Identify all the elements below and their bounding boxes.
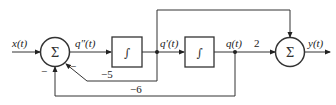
integrator-2-symbol: ∫ [196,46,203,60]
integrator-1-symbol: ∫ [124,46,131,60]
sum1-sigma: Σ [51,46,59,60]
block-diagram: x(t) Σ q″(t) ∫ q′(t) ∫ q(t) 2 Σ y(t) −5 … [0,0,336,105]
sum1-sign-q: − [41,65,47,77]
output-label: y(t) [307,37,324,50]
gain-minus5-label: −5 [101,68,113,80]
branch-node-qdot [155,50,159,54]
qdot-label: q′(t) [160,37,179,50]
feedback-q-line [55,52,235,96]
q-label: q(t) [226,37,242,50]
gain-minus6-label: −6 [130,83,142,95]
input-label: x(t) [11,37,28,50]
gain-2-label: 2 [254,37,260,49]
qddot-label: q″(t) [75,37,96,50]
sum1-sign-qdot: − [70,60,76,72]
branch-node-q [233,50,237,54]
sum2-sigma: Σ [286,46,294,60]
